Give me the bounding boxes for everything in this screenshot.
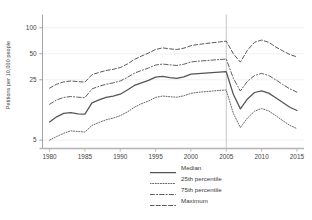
legend-label: Maximum: [181, 197, 208, 204]
series-line-2: [50, 59, 297, 104]
legend-key-2: [150, 185, 176, 194]
legend-key-3: [150, 196, 176, 205]
legend-label: 75th percentile: [181, 186, 222, 193]
legend-label: Median: [181, 164, 201, 171]
legend-item: Median: [150, 162, 222, 173]
legend-label: 25th percentile: [181, 175, 222, 182]
x-tick-label: 1985: [70, 153, 100, 160]
y-tick-label: 100: [15, 24, 37, 31]
series-line-3: [50, 40, 297, 88]
series-line-0: [50, 72, 297, 122]
legend-item: Maximum: [150, 195, 222, 206]
x-tick-label: 2005: [211, 153, 241, 160]
x-tick-label: 1980: [35, 153, 65, 160]
legend-key-0: [150, 163, 176, 172]
x-tick-label: 1995: [141, 153, 171, 160]
x-tick-label: 2015: [282, 153, 312, 160]
chart-legend: Median25th percentile75th percentileMaxi…: [150, 162, 222, 206]
chart-figure: Petitions per 10,000 people 52550100 198…: [0, 0, 312, 220]
legend-item: 25th percentile: [150, 173, 222, 184]
series-line-1: [50, 90, 297, 140]
x-tick-label: 1990: [105, 153, 135, 160]
legend-item: 75th percentile: [150, 184, 222, 195]
y-tick-label: 25: [15, 76, 37, 83]
y-tick-label: 50: [15, 50, 37, 57]
x-tick-label: 2000: [176, 153, 206, 160]
x-tick-label: 2010: [247, 153, 277, 160]
y-tick-label: 5: [15, 136, 37, 143]
legend-key-1: [150, 174, 176, 183]
